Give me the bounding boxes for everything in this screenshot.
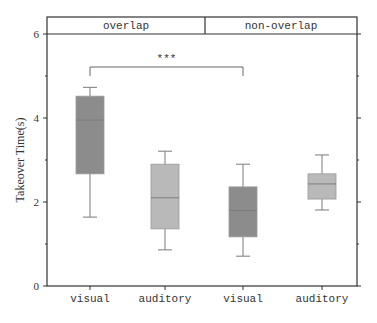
box-non-overlap-visual	[229, 164, 257, 256]
axes-layer: overlapnon-overlap0246visualauditoryvisu…	[13, 17, 361, 305]
boxes-layer	[76, 87, 336, 256]
x-tick-label-visual: visual	[70, 293, 110, 305]
significance-bracket	[90, 67, 243, 76]
panel-label-non-overlap: non-overlap	[245, 20, 318, 32]
y-tick-label: 0	[34, 280, 40, 292]
box-plot-chart: overlapnon-overlap0246visualauditoryvisu…	[0, 0, 377, 323]
y-axis-label: Takeover Time(s)	[13, 118, 27, 203]
box-overlap-auditory	[151, 151, 179, 250]
box-iqr	[308, 174, 336, 199]
x-tick-label-visual: visual	[223, 293, 263, 305]
box-non-overlap-auditory	[308, 155, 336, 210]
box-iqr	[151, 164, 179, 229]
x-tick-label-auditory: auditory	[296, 293, 349, 305]
y-tick-label: 6	[34, 28, 40, 40]
box-iqr	[76, 96, 104, 174]
significance-label: ***	[157, 53, 177, 65]
box-overlap-visual	[76, 87, 104, 217]
panel-label-overlap: overlap	[103, 20, 149, 32]
box-iqr	[229, 187, 257, 237]
y-tick-label: 2	[34, 196, 40, 208]
x-tick-label-auditory: auditory	[139, 293, 192, 305]
y-tick-label: 4	[34, 112, 40, 124]
